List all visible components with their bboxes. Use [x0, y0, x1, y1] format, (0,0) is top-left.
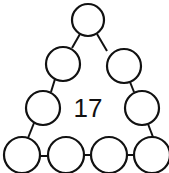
circle-bottom-4[interactable] — [134, 137, 169, 173]
edge-left3-bottom1 — [28, 123, 34, 138]
circle-bottom-1[interactable] — [4, 137, 40, 173]
circle-bottom-3[interactable] — [91, 137, 127, 173]
circle-left-2[interactable] — [46, 47, 80, 81]
circle-top[interactable] — [72, 4, 104, 36]
edge-left2-left3 — [51, 79, 55, 92]
triangle-puzzle-diagram: 17 — [0, 0, 169, 173]
edge-top-right2 — [97, 34, 107, 51]
edge-right3-bottom4 — [148, 124, 153, 137]
circle-right-3[interactable] — [125, 91, 159, 125]
circle-bottom-2[interactable] — [48, 137, 84, 173]
edge-top-left2 — [72, 34, 80, 48]
circle-right-2[interactable] — [107, 49, 141, 83]
center-sum-label: 17 — [74, 93, 103, 123]
circle-left-3[interactable] — [26, 91, 60, 125]
edge-right2-right3 — [130, 82, 134, 92]
